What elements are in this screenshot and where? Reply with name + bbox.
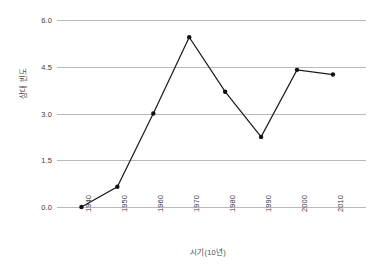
series-line-relative-frequency	[81, 37, 333, 207]
gridline	[57, 67, 366, 68]
y-tick-label: 4.5	[12, 62, 52, 71]
data-point-markers	[79, 35, 335, 209]
y-tick-label: 0.0	[12, 203, 52, 212]
x-tick-label: 1950	[120, 195, 129, 212]
y-tick-label: 1.5	[12, 156, 52, 165]
x-tick-label: 1940	[84, 195, 93, 212]
data-point-marker	[223, 89, 227, 93]
data-point-marker	[187, 35, 191, 39]
x-tick-label: 2010	[336, 195, 345, 212]
gridline	[57, 114, 366, 115]
data-point-marker	[115, 185, 119, 189]
x-tick-label: 1990	[264, 195, 273, 212]
x-tick-label: 1960	[156, 195, 165, 212]
data-point-marker	[259, 135, 263, 139]
gridline	[57, 20, 366, 21]
x-tick-label: 1970	[192, 195, 201, 212]
line-chart: 상대 빈도 0.01.53.04.56.0 194019501960197019…	[0, 0, 386, 268]
x-axis-title: 시기(10년)	[0, 246, 386, 257]
y-axis-title: 상대 빈도	[17, 49, 28, 119]
x-axis-title-text: 시기(10년)	[190, 248, 226, 257]
plot-area	[0, 0, 386, 268]
gridline	[57, 207, 366, 208]
x-tick-label: 2000	[300, 195, 309, 212]
gridline	[57, 160, 366, 161]
y-tick-label: 6.0	[12, 16, 52, 25]
data-point-marker	[331, 72, 335, 76]
y-tick-label: 3.0	[12, 109, 52, 118]
data-point-marker	[295, 68, 299, 72]
x-tick-label: 1980	[228, 195, 237, 212]
